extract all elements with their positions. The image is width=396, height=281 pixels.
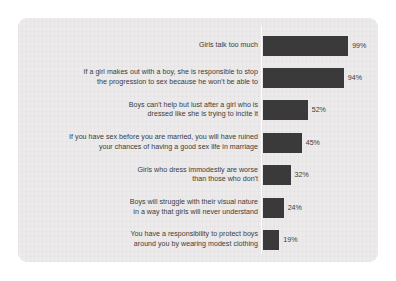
bar-track: 45%: [263, 132, 320, 153]
bar-fill: [263, 230, 279, 250]
bar-row: If a girl makes out with a boy, she is r…: [18, 67, 378, 88]
bar-category-label: You have a responsibility to protect boy…: [20, 230, 258, 249]
bar-track: 99%: [263, 35, 366, 56]
bar-fill: [263, 100, 308, 120]
bar-track: 52%: [263, 100, 326, 121]
bar-row: Girls who dress immodestly are worse tha…: [18, 165, 378, 186]
bar-fill: [263, 68, 344, 88]
bar-fill: [263, 36, 348, 56]
bar-value-label: 45%: [306, 139, 320, 147]
bar-track: 24%: [263, 197, 302, 218]
bar-track: 19%: [263, 229, 298, 250]
bar-fill: [263, 133, 302, 153]
bar-row: Boys can't help but lust after a girl wh…: [18, 100, 378, 121]
bar-category-label: Girls who dress immodestly are worse tha…: [20, 166, 258, 185]
bar-row: Boys will struggle with their visual nat…: [18, 197, 378, 218]
bar-track: 94%: [263, 67, 362, 88]
bar-value-label: 32%: [295, 171, 309, 179]
bar-row: You have a responsibility to protect boy…: [18, 229, 378, 250]
bar-value-label: 99%: [352, 42, 366, 50]
bar-category-label: Boys can't help but lust after a girl wh…: [20, 101, 258, 120]
bar-category-label: Girls talk too much: [20, 41, 258, 51]
chart-card: Girls talk too much99%If a girl makes ou…: [18, 18, 378, 262]
bar-value-label: 19%: [283, 236, 297, 244]
bar-category-label: If you have sex before you are married, …: [20, 133, 258, 152]
bar-value-label: 24%: [288, 204, 302, 212]
bar-row: Girls talk too much99%: [18, 35, 378, 56]
bar-chart-plot-area: Girls talk too much99%If a girl makes ou…: [18, 18, 378, 262]
bar-value-label: 94%: [348, 74, 362, 82]
bar-row: If you have sex before you are married, …: [18, 132, 378, 153]
bar-fill: [263, 165, 291, 185]
bar-category-label: Boys will struggle with their visual nat…: [20, 198, 258, 217]
bar-fill: [263, 198, 284, 218]
bar-value-label: 52%: [312, 106, 326, 114]
bar-track: 32%: [263, 165, 309, 186]
bar-category-label: If a girl makes out with a boy, she is r…: [20, 68, 258, 87]
